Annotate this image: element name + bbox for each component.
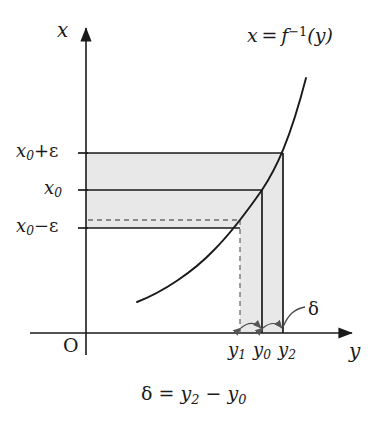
tick-label-y0: y0 bbox=[253, 341, 271, 362]
figure-container: x y O x0+ε x0 x0−ε y1 y0 y2 x = f−1(y) δ… bbox=[0, 0, 388, 430]
tick-label-y2: y2 bbox=[278, 341, 296, 362]
tick-label-x0-minus-epsilon: x0−ε bbox=[16, 217, 58, 238]
tick-label-x0-plus-epsilon: x0+ε bbox=[16, 142, 58, 163]
origin-label: O bbox=[63, 336, 79, 355]
tick-label-x0: x0 bbox=[44, 179, 62, 200]
axis-label-x: x bbox=[57, 20, 68, 40]
delta-annotation-label: δ bbox=[308, 300, 319, 318]
figure-caption: δ = y2 − y0 bbox=[141, 384, 246, 407]
delta-leader-line bbox=[283, 307, 305, 327]
curve-equation-label: x = f−1(y) bbox=[247, 26, 333, 45]
tick-label-y1: y1 bbox=[228, 341, 246, 362]
axis-label-y: y bbox=[349, 341, 360, 361]
